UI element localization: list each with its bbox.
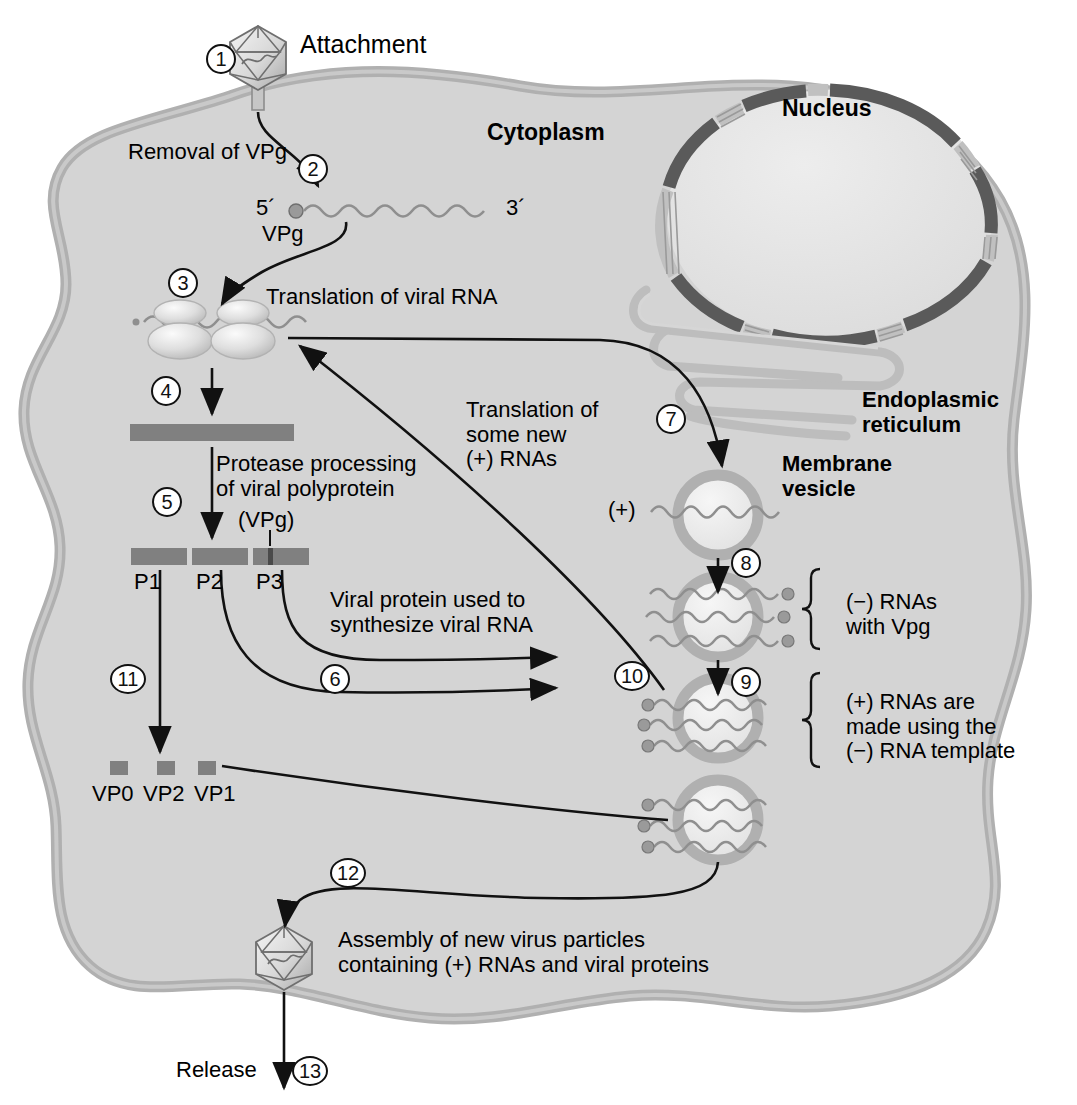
- label-translation-some-new: Translation of some new (+) RNAs: [466, 398, 598, 472]
- label-nucleus: Nucleus: [782, 96, 871, 122]
- label-p1: P1: [134, 570, 161, 595]
- label-three-prime: 3´: [506, 196, 526, 221]
- ribosome: [148, 300, 212, 359]
- label-p2: P2: [196, 570, 223, 595]
- step-badge-13[interactable]: 13: [292, 1056, 328, 1086]
- label-plus-rna: (+): [608, 498, 636, 523]
- label-vpg: VPg: [262, 222, 304, 247]
- label-assembly: Assembly of new virus particles containi…: [338, 928, 709, 977]
- label-minus-rnas-with-vpg: (−) RNAs with Vpg: [846, 590, 937, 639]
- vpg-marker: [268, 548, 273, 565]
- label-attachment: Attachment: [300, 30, 426, 58]
- label-vp2: VP2: [143, 782, 185, 807]
- nucleus: [661, 90, 997, 342]
- label-protease-processing: Protease processing of viral polyprotein: [216, 452, 417, 501]
- step-badge-12[interactable]: 12: [330, 858, 366, 888]
- label-cytoplasm: Cytoplasm: [487, 120, 605, 146]
- step-badge-9[interactable]: 9: [731, 667, 761, 697]
- label-endoplasmic-reticulum: Endoplasmic reticulum: [862, 388, 999, 437]
- figure-canvas: Attachment Cytoplasm Nucleus Endoplasmic…: [0, 0, 1077, 1105]
- step-badge-3[interactable]: 3: [168, 268, 198, 298]
- polyprotein-bar: [130, 424, 294, 441]
- step-badge-2[interactable]: 2: [298, 154, 328, 184]
- label-viral-protein-used: Viral protein used to synthesize viral R…: [330, 588, 533, 637]
- step-badge-8[interactable]: 8: [731, 548, 761, 578]
- step-badge-4[interactable]: 4: [151, 376, 181, 406]
- label-vpg-paren: (VPg): [238, 508, 294, 533]
- step-badge-6[interactable]: 6: [320, 664, 350, 694]
- label-removal-of-vpg: Removal of VPg: [128, 140, 287, 165]
- step-badge-10[interactable]: 10: [614, 661, 650, 691]
- capsid-protein-squares: [110, 761, 216, 775]
- label-plus-rnas-made: (+) RNAs are made using the (−) RNA temp…: [846, 690, 1015, 764]
- step-badge-5[interactable]: 5: [152, 487, 182, 517]
- label-p3: P3: [256, 570, 283, 595]
- step-badge-11[interactable]: 11: [110, 664, 146, 694]
- label-release: Release: [176, 1058, 257, 1083]
- step-badge-1[interactable]: 1: [206, 44, 236, 74]
- label-vp1: VP1: [194, 782, 236, 807]
- label-membrane-vesicle: Membrane vesicle: [782, 452, 892, 501]
- label-translation-of-viral-rna: Translation of viral RNA: [266, 285, 497, 310]
- step-badge-7[interactable]: 7: [656, 404, 686, 434]
- label-five-prime: 5´: [256, 196, 276, 221]
- label-vp0: VP0: [92, 782, 134, 807]
